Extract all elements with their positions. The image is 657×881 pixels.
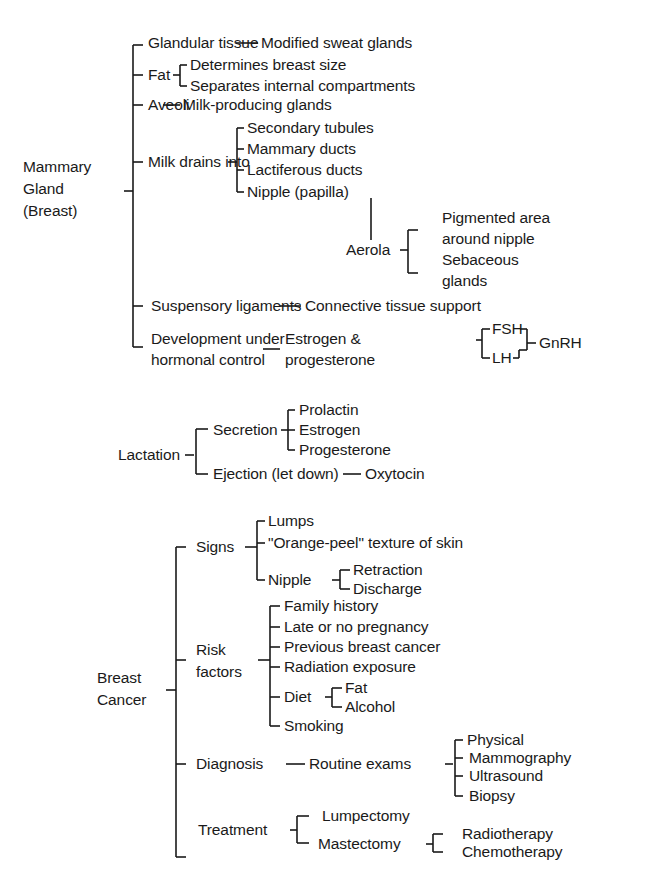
ejection-node: Ejection (let down) bbox=[213, 466, 339, 482]
signs-child-lumps: Lumps bbox=[268, 513, 314, 529]
milk-drains-into-node: Milk drains into bbox=[148, 154, 250, 170]
secretion-node: Secretion bbox=[213, 422, 278, 438]
aerola-node: Aerola bbox=[346, 242, 390, 258]
fat-child-compartments: Separates internal compartments bbox=[190, 78, 415, 94]
concept-diagram: Mammary Gland (Breast) Glandular tissue … bbox=[0, 0, 657, 881]
cancer-root-line2: Cancer bbox=[97, 692, 146, 708]
diagnosis-node: Diagnosis bbox=[196, 756, 263, 772]
milk-child-lactiferous-ducts: Lactiferous ducts bbox=[247, 162, 362, 178]
exam-mammography: Mammography bbox=[469, 750, 571, 766]
aerola-child-line3: Sebaceous bbox=[442, 252, 519, 268]
risk-child-late-pregnancy: Late or no pregnancy bbox=[284, 619, 429, 635]
exam-physical: Physical bbox=[467, 732, 524, 748]
nipple-child-discharge: Discharge bbox=[353, 581, 422, 597]
diet-child-fat: Fat bbox=[345, 680, 367, 696]
mammary-root-line3: (Breast) bbox=[23, 203, 77, 219]
fat-child-breast-size: Determines breast size bbox=[190, 57, 346, 73]
oxytocin-node: Oxytocin bbox=[365, 466, 425, 482]
secretion-child-estrogen: Estrogen bbox=[299, 422, 360, 438]
development-line1: Development under bbox=[151, 331, 285, 347]
risk-child-previous-cancer: Previous breast cancer bbox=[284, 639, 440, 655]
signs-nipple-node: Nipple bbox=[268, 572, 311, 588]
estrogen-progesterone-line2: progesterone bbox=[285, 352, 375, 368]
routine-exams-node: Routine exams bbox=[309, 756, 411, 772]
aerola-child-line4: glands bbox=[442, 273, 487, 289]
cancer-root-line1: Breast bbox=[97, 670, 141, 686]
modified-sweat-glands-node: Modified sweat glands bbox=[261, 35, 412, 51]
signs-node: Signs bbox=[196, 539, 234, 555]
mammary-root-line2: Gland bbox=[23, 181, 64, 197]
risk-factors-line1: Risk bbox=[196, 642, 226, 658]
signs-child-orange-peel: "Orange-peel" texture of skin bbox=[268, 535, 463, 551]
risk-child-smoking: Smoking bbox=[284, 718, 344, 734]
secretion-child-prolactin: Prolactin bbox=[299, 402, 358, 418]
risk-child-radiation: Radiation exposure bbox=[284, 659, 416, 675]
secretion-child-progesterone: Progesterone bbox=[299, 442, 391, 458]
treatment-child-lumpectomy: Lumpectomy bbox=[322, 808, 410, 824]
glandular-tissue-node: Glandular tissue bbox=[148, 35, 258, 51]
mastectomy-child-chemotherapy: Chemotherapy bbox=[462, 844, 562, 860]
mastectomy-child-radiotherapy: Radiotherapy bbox=[462, 826, 553, 842]
exam-biopsy: Biopsy bbox=[469, 788, 515, 804]
milk-child-mammary-ducts: Mammary ducts bbox=[247, 141, 356, 157]
lactation-root: Lactation bbox=[118, 447, 180, 463]
mammary-root-line1: Mammary bbox=[23, 159, 91, 175]
estrogen-progesterone-line1: Estrogen & bbox=[285, 331, 361, 347]
suspensory-ligaments-node: Suspensory ligaments bbox=[151, 298, 302, 314]
nipple-child-retraction: Retraction bbox=[353, 562, 423, 578]
development-line2: hormonal control bbox=[151, 352, 265, 368]
exam-ultrasound: Ultrasound bbox=[469, 768, 543, 784]
aerola-child-line2: around nipple bbox=[442, 231, 535, 247]
risk-factors-line2: factors bbox=[196, 664, 242, 680]
diet-child-alcohol: Alcohol bbox=[345, 699, 395, 715]
connective-tissue-node: Connective tissue support bbox=[305, 298, 481, 314]
milk-producing-glands-node: Milk-producing glands bbox=[183, 97, 332, 113]
treatment-child-mastectomy: Mastectomy bbox=[318, 836, 401, 852]
risk-diet-node: Diet bbox=[284, 689, 311, 705]
gnrh-node: GnRH bbox=[539, 335, 582, 351]
fat-node: Fat bbox=[148, 67, 170, 83]
lh-node: LH bbox=[492, 350, 512, 366]
risk-child-family-history: Family history bbox=[284, 598, 378, 614]
milk-child-nipple: Nipple (papilla) bbox=[247, 184, 349, 200]
fsh-node: FSH bbox=[492, 321, 523, 337]
milk-child-secondary-tubules: Secondary tubules bbox=[247, 120, 374, 136]
treatment-node: Treatment bbox=[198, 822, 267, 838]
aerola-child-line1: Pigmented area bbox=[442, 210, 550, 226]
